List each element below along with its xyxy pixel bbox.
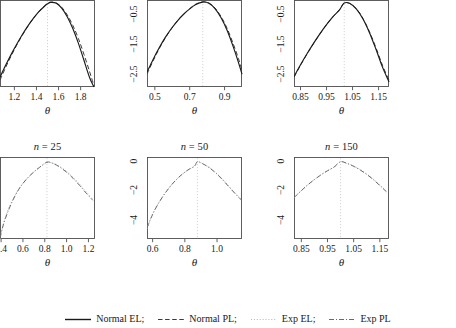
y-tick-label: −4	[128, 209, 140, 231]
series-curve	[294, 2, 389, 82]
x-tick-label: 0.95	[318, 92, 335, 102]
x-tick-label: 1.2	[83, 244, 95, 254]
plot-area	[147, 157, 248, 245]
series-curve	[0, 2, 94, 87]
x-tick-label: 1.15	[370, 92, 387, 102]
x-tick-label: 1.4	[31, 92, 43, 102]
x-axis-label: θ	[0, 256, 95, 268]
legend-entry: Exp PL	[329, 313, 390, 324]
plot-area	[0, 157, 101, 245]
x-axis-label: θ	[294, 104, 389, 116]
plot-panel: n = 250.40.60.81.01.2−4−20θ−log MLR (θ),…	[0, 157, 95, 239]
x-tick-label: 1.2	[8, 92, 20, 102]
dashed-line-icon	[158, 314, 184, 324]
x-tick-label: 0.9	[219, 92, 231, 102]
panel-title-value: = 50	[186, 141, 208, 152]
panel-title-value: = 25	[39, 141, 61, 152]
legend-label: Exp EL;	[282, 313, 316, 324]
plot-area	[294, 157, 395, 245]
dashdot-line-icon	[329, 314, 355, 324]
y-tick-label: −2.5	[128, 63, 140, 85]
x-tick-label: 0.85	[292, 92, 309, 102]
x-axis-label: θ	[147, 104, 242, 116]
x-tick-label: 0.8	[179, 244, 191, 254]
series-curve	[147, 162, 241, 229]
legend-label: Normal EL;	[96, 313, 144, 324]
x-tick-label: 0.8	[39, 244, 51, 254]
panel-title: n = 50	[147, 141, 242, 152]
y-tick-label: −2.5	[275, 63, 287, 85]
plot-panel: n = 1500.850.951.051.15−4−20θ	[294, 157, 389, 239]
legend-entry: Exp EL;	[251, 313, 316, 324]
plot-panel: n = 500.50.70.9−2.5−1.5−0.5θ	[147, 0, 242, 87]
x-tick-label: 1.8	[75, 92, 87, 102]
x-tick-label: 1.6	[53, 92, 65, 102]
y-tick-label: −0.5	[275, 3, 287, 25]
panel-title: n = 150	[294, 141, 389, 152]
legend-label: Normal PL;	[189, 313, 237, 324]
y-tick-label: −0.5	[128, 3, 140, 25]
y-tick-label: −1.5	[275, 33, 287, 55]
y-tick-label: −1.5	[128, 33, 140, 55]
figure-root: n = 251.21.41.61.8−2.5−1.5−0.5θ−log MLR …	[0, 0, 456, 328]
plot-frame	[295, 158, 389, 239]
panel-title: n = 25	[0, 141, 95, 152]
plot-area	[147, 0, 248, 93]
legend-entry: Normal PL;	[158, 313, 237, 324]
x-tick-label: 0.6	[17, 244, 29, 254]
plot-area	[294, 0, 395, 93]
plot-panel: n = 251.21.41.61.8−2.5−1.5−0.5θ−log MLR …	[0, 0, 95, 87]
x-tick-label: 0.95	[319, 244, 336, 254]
y-tick-label: 0	[275, 150, 287, 172]
x-tick-label: 1.05	[344, 92, 361, 102]
x-tick-label: 1.0	[211, 244, 223, 254]
x-tick-label: 0.5	[149, 92, 161, 102]
plot-area	[0, 0, 101, 93]
legend-entry: Normal EL;	[65, 313, 144, 324]
series-curve	[294, 2, 389, 80]
series-curve	[0, 2, 94, 85]
y-tick-label: −4	[275, 209, 287, 231]
x-tick-label: 0.7	[184, 92, 196, 102]
plot-panel: n = 500.60.81.0−4−20θ	[147, 157, 242, 239]
series-curve	[147, 2, 242, 74]
x-tick-label: 0.4	[0, 244, 7, 254]
series-curve	[147, 162, 241, 228]
panel-grid: n = 251.21.41.61.8−2.5−1.5−0.5θ−log MLR …	[0, 0, 456, 296]
x-tick-label: 0.6	[147, 244, 159, 254]
plot-frame	[1, 158, 95, 239]
plot-panel: n = 1500.850.951.051.15−2.5−1.5−0.5θ	[294, 0, 389, 87]
series-curve	[0, 162, 93, 239]
y-tick-label: −2	[275, 179, 287, 201]
y-tick-label: −2	[128, 179, 140, 201]
dotted-line-icon	[251, 314, 277, 324]
figure-legend: Normal EL;Normal PL;Exp EL;Exp PL	[0, 313, 456, 324]
x-tick-label: 1.0	[61, 244, 73, 254]
y-tick-label: 0	[128, 150, 140, 172]
legend-label: Exp PL	[360, 313, 390, 324]
x-axis-label: θ	[294, 256, 389, 268]
x-tick-label: 1.05	[345, 244, 362, 254]
x-tick-label: 1.15	[372, 244, 389, 254]
series-curve	[147, 2, 242, 75]
series-curve	[0, 162, 93, 238]
x-axis-label: θ	[147, 256, 242, 268]
x-tick-label: 0.85	[293, 244, 310, 254]
solid-line-icon	[65, 314, 91, 324]
panel-title-value: = 150	[330, 141, 358, 152]
x-axis-label: θ	[0, 104, 95, 116]
